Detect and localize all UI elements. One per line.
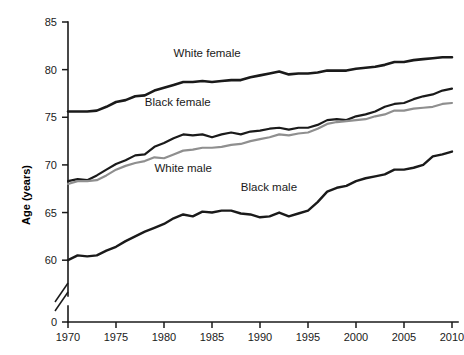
x-axis-ticks: 197019751980198519901995200020052010 (56, 322, 464, 343)
series-label-group: White femaleBlack femaleWhite maleBlack … (145, 47, 297, 192)
y-tick-label: 0 (51, 316, 57, 328)
y-tick-label: 70 (45, 159, 57, 171)
x-tick-label: 1985 (200, 331, 224, 343)
x-tick-label: 2000 (344, 331, 368, 343)
x-tick-label: 1990 (248, 331, 272, 343)
series-line-black-male (68, 152, 452, 261)
x-tick-label: 2010 (440, 331, 464, 343)
y-axis-break-icon (55, 283, 68, 311)
x-tick-label: 1995 (296, 331, 320, 343)
series-label-white-female: White female (174, 47, 241, 59)
y-tick-label: 85 (45, 16, 57, 28)
y-axis-ticks: 0606570758085 (45, 16, 68, 328)
x-tick-label: 1980 (152, 331, 176, 343)
chart-canvas: 0606570758085 19701975198019851990199520… (0, 0, 464, 355)
y-tick-label: 60 (45, 254, 57, 266)
y-tick-label: 75 (45, 111, 57, 123)
x-tick-label: 1970 (56, 331, 80, 343)
series-line-black-female (68, 89, 452, 181)
x-tick-label: 2005 (392, 331, 416, 343)
y-tick-label: 65 (45, 207, 57, 219)
series-label-black-male: Black male (241, 181, 297, 193)
axes-group (55, 22, 458, 322)
series-line-white-male (68, 103, 452, 184)
y-tick-label: 80 (45, 64, 57, 76)
data-series-group (68, 57, 452, 260)
series-label-white-male: White male (154, 162, 212, 174)
series-label-black-female: Black female (145, 96, 211, 108)
y-axis-title: Age (years) (20, 165, 32, 225)
x-tick-label: 1975 (104, 331, 128, 343)
life-expectancy-chart: 0606570758085 19701975198019851990199520… (0, 0, 464, 355)
